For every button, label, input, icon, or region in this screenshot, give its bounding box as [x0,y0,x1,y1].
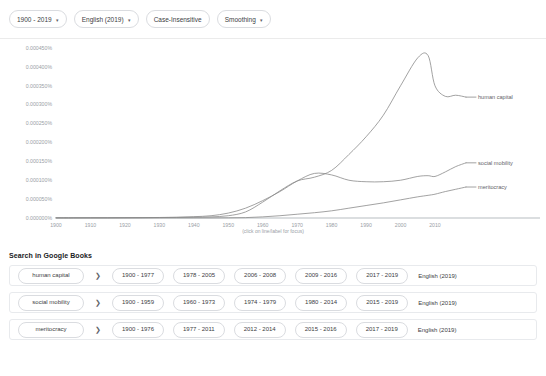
row-language-label: English (2019) [417,273,457,279]
year-range-chip[interactable]: 1900 - 1959 [112,295,164,311]
series-lines[interactable] [56,53,476,218]
search-in-google-books-section: Search in Google Books human capital❯190… [0,252,546,346]
search-rows-container: human capital❯1900 - 19771978 - 20052006… [0,265,546,340]
y-axis-tick-label: 0.000300% [26,101,53,107]
corpus-selector[interactable]: English (2019) ▾ [74,10,139,28]
series-label-meritocracy[interactable]: meritocracy [478,184,507,190]
year-range-chip[interactable]: 1960 - 1973 [173,295,225,311]
chevron-down-icon: ▾ [128,17,131,22]
year-range-chip[interactable]: 2012 - 2014 [234,322,286,338]
chart-focus-hint: (click on line/label for focus) [0,228,546,234]
year-range-chip[interactable]: 2009 - 2016 [295,268,347,284]
series-line-human-capital[interactable] [56,53,466,218]
date-range-selector[interactable]: 1900 - 2019 ▾ [9,10,67,28]
toolbar-divider [0,38,546,39]
row-language-label: English (2019) [417,300,457,306]
y-axis-tick-label: 0.000250% [26,120,53,126]
search-term-chip[interactable]: social mobility [18,295,84,311]
chevron-down-icon: ▾ [260,17,263,22]
year-range-chip[interactable]: 1900 - 1977 [112,268,164,284]
year-range-chip[interactable]: 1977 - 2011 [173,322,225,338]
y-axis-tick-label: 0.000050% [26,196,53,202]
chevron-right-icon[interactable]: ❯ [93,326,103,334]
search-row: human capital❯1900 - 19771978 - 20052006… [9,265,537,286]
ngram-chart[interactable]: 0.000000%0.000050%0.000100%0.000150%0.00… [0,40,546,245]
search-row: meritocracy❯1900 - 19761977 - 20112012 -… [9,319,537,340]
year-range-chip[interactable]: 2006 - 2008 [234,268,286,284]
year-range-chip[interactable]: 2017 - 2019 [356,268,408,284]
ngram-toolbar: 1900 - 2019 ▾ English (2019) ▾ Case-Inse… [0,0,546,28]
year-range-chip[interactable]: 1974 - 1979 [234,295,286,311]
year-range-chip[interactable]: 1980 - 2014 [295,295,347,311]
series-label-human-capital[interactable]: human capital [478,94,513,100]
series-line-meritocracy[interactable] [56,187,466,218]
y-axis-tick-labels: 0.000000%0.000050%0.000100%0.000150%0.00… [26,45,53,221]
chevron-down-icon: ▾ [56,17,59,22]
series-labels[interactable]: human capitalsocial mobilitymeritocracy [478,94,513,190]
series-line-social-mobility[interactable] [56,163,466,218]
y-axis-tick-label: 0.000100% [26,177,53,183]
smoothing-selector[interactable]: Smoothing ▾ [217,10,271,28]
year-range-chip[interactable]: 2015 - 2016 [295,322,347,338]
date-range-label: 1900 - 2019 [17,12,52,27]
row-language-label: English (2019) [417,327,457,333]
corpus-label: English (2019) [82,12,124,27]
y-axis-tick-label: 0.000450% [26,45,53,51]
series-label-social-mobility[interactable]: social mobility [478,160,513,166]
chevron-right-icon[interactable]: ❯ [93,299,103,307]
y-axis-tick-label: 0.000000% [26,215,53,221]
case-insensitive-toggle[interactable]: Case-Insensitive [146,10,210,28]
year-range-chip[interactable]: 2017 - 2019 [356,322,408,338]
search-term-chip[interactable]: human capital [18,268,84,284]
smoothing-label: Smoothing [225,12,256,27]
y-axis-tick-label: 0.000400% [26,64,53,70]
search-row: social mobility❯1900 - 19591960 - 197319… [9,292,537,313]
chart-canvas[interactable]: 0.000000%0.000050%0.000100%0.000150%0.00… [0,40,546,245]
search-section-heading: Search in Google Books [0,252,546,265]
y-axis-tick-label: 0.000350% [26,83,53,89]
y-axis-tick-label: 0.000200% [26,139,53,145]
chevron-right-icon[interactable]: ❯ [93,272,103,280]
year-range-chip[interactable]: 2015 - 2019 [356,295,408,311]
year-range-chip[interactable]: 1900 - 1976 [112,322,164,338]
search-term-chip[interactable]: meritocracy [18,322,84,338]
year-range-chip[interactable]: 1978 - 2005 [173,268,225,284]
y-axis-tick-label: 0.000150% [26,158,53,164]
case-insensitive-label: Case-Insensitive [154,12,202,27]
